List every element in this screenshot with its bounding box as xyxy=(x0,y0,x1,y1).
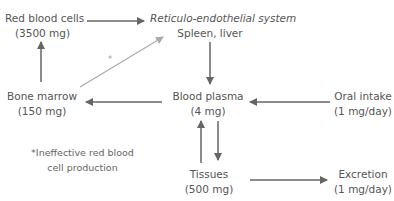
node-excretion: Excretion (1 mg/day) xyxy=(334,167,392,197)
node-label: Red blood cells xyxy=(5,11,80,26)
node-bone-marrow: Bone marrow (150 mg) xyxy=(6,89,78,119)
arrow-marrow-to-res xyxy=(80,37,163,87)
node-reticulo-endothelial-system: Reticulo-endothelial system Spleen, live… xyxy=(150,11,270,41)
node-value: (500 mg) xyxy=(180,182,238,197)
footnote: *Ineffective red blood cell production xyxy=(30,145,135,175)
node-value: (1 mg/day) xyxy=(334,104,392,119)
node-label: Bone marrow xyxy=(6,89,78,104)
node-label: Blood plasma xyxy=(170,89,246,104)
node-value: (4 mg) xyxy=(170,104,246,119)
node-label: Tissues xyxy=(180,167,238,182)
node-label: Reticulo-endothelial system xyxy=(150,11,270,26)
asterisk-marker: * xyxy=(108,52,112,67)
footnote-line-2: cell production xyxy=(30,160,135,175)
footnote-line-1: *Ineffective red blood xyxy=(30,145,135,160)
node-sublabel: Spleen, liver xyxy=(150,26,270,41)
node-value: (1 mg/day) xyxy=(334,182,392,197)
node-blood-plasma: Blood plasma (4 mg) xyxy=(170,89,246,119)
node-label: Excretion xyxy=(334,167,392,182)
node-red-blood-cells: Red blood cells (3500 mg) xyxy=(5,11,80,41)
node-value: (3500 mg) xyxy=(5,26,80,41)
node-label: Oral intake xyxy=(334,89,392,104)
node-value: (150 mg) xyxy=(6,104,78,119)
node-oral-intake: Oral intake (1 mg/day) xyxy=(334,89,392,119)
node-tissues: Tissues (500 mg) xyxy=(180,167,238,197)
